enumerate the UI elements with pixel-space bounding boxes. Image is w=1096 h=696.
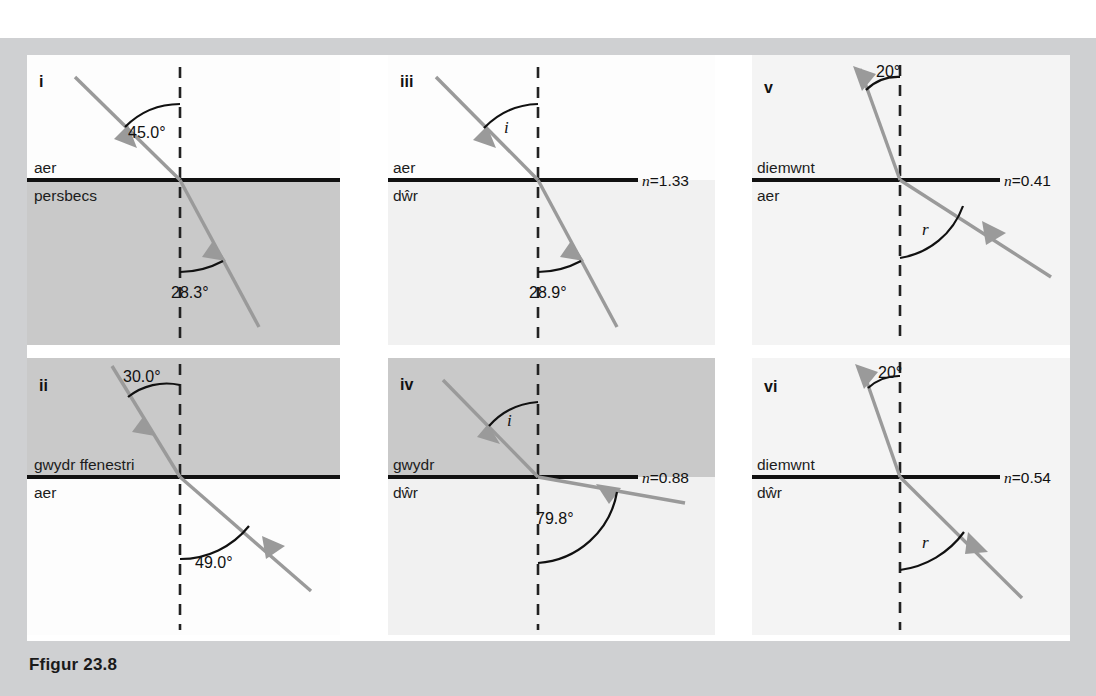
- refracted-angle-text: 28.3°: [171, 284, 209, 301]
- refractive-index-label: n=0.54: [1004, 469, 1051, 486]
- incident-angle-text: i: [504, 118, 509, 137]
- panel-label: i: [39, 73, 43, 90]
- lower-medium-label: dŵr: [393, 484, 418, 501]
- panel-v: v 20° r diemwnt aer n=0.41: [752, 55, 1070, 345]
- panel-label: ii: [39, 377, 48, 394]
- lower-medium-label: aer: [34, 484, 56, 501]
- figure-page: i 45.0° 28.3° aer persbecs ii 30.0°: [0, 0, 1096, 696]
- refracted-angle-text: r: [922, 533, 929, 552]
- panel-ii: ii 30.0° 49.0° gwydr ffenestri aer: [27, 358, 340, 635]
- panel-iv: iv i 79.8° gwydr dŵr n=0.88: [388, 358, 715, 635]
- refracted-angle-text: 28.9°: [529, 284, 567, 301]
- caption-band: [0, 648, 1096, 696]
- panel-i-lower-region: [27, 180, 340, 345]
- upper-medium-label: diemwnt: [757, 456, 815, 473]
- panel-label: vi: [764, 378, 777, 395]
- incident-angle-text: 30.0°: [123, 368, 161, 385]
- incident-angle-text: 20°: [876, 63, 900, 80]
- lower-medium-label: dŵr: [393, 187, 418, 204]
- panel-label: v: [764, 79, 773, 96]
- lower-medium-label: aer: [757, 187, 779, 204]
- lower-medium-label: persbecs: [34, 187, 97, 204]
- incident-angle-text: 20°: [878, 364, 902, 381]
- refracted-angle-text: 49.0°: [195, 554, 233, 571]
- refractive-index-label: n=0.41: [1004, 172, 1051, 189]
- upper-medium-label: aer: [34, 159, 56, 176]
- panel-v-lower-region: [752, 180, 1070, 345]
- refractive-index-label: n=0.88: [642, 469, 689, 486]
- refracted-angle-text: r: [922, 220, 929, 239]
- panel-label: iii: [400, 73, 413, 90]
- panel-i: i 45.0° 28.3° aer persbecs: [27, 55, 340, 345]
- panel-label: iv: [400, 376, 413, 393]
- refracted-angle-text: 79.8°: [536, 510, 574, 527]
- panel-vi: vi 20° r diemwnt dŵr n=0.54: [752, 358, 1070, 635]
- panel-iii: iii i 28.9° aer dŵr n=1.33: [388, 55, 715, 345]
- upper-medium-label: gwydr: [393, 456, 434, 473]
- panel-iv-upper-region: [388, 358, 715, 477]
- refractive-index-label: n=1.33: [642, 172, 689, 189]
- incident-angle-text: 45.0°: [128, 124, 166, 141]
- upper-medium-label: aer: [393, 159, 415, 176]
- incident-angle-text: i: [507, 411, 512, 430]
- lower-medium-label: dŵr: [757, 484, 782, 501]
- upper-medium-label: diemwnt: [757, 159, 815, 176]
- figure-caption: Ffigur 23.8: [29, 655, 117, 675]
- upper-medium-label: gwydr ffenestri: [34, 456, 135, 473]
